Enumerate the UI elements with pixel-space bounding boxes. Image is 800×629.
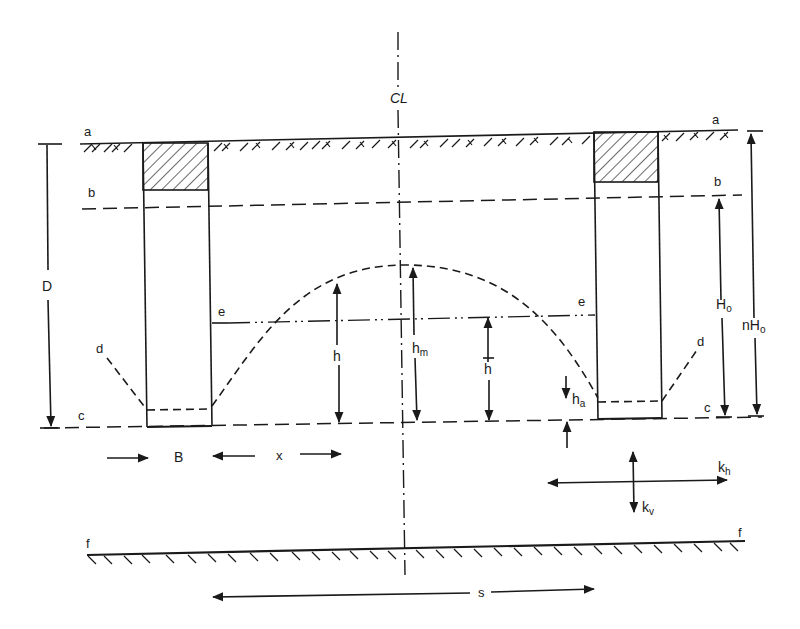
dimension-x: x	[276, 448, 341, 463]
level-b-left-label: b	[88, 185, 95, 200]
level-e-right-label: e	[578, 294, 585, 309]
dimension-ha: ha	[566, 376, 586, 448]
h-label: h	[333, 348, 341, 364]
level-b-right-label: b	[714, 174, 721, 189]
kv-label: kv	[642, 499, 654, 517]
dimension-D: D	[38, 144, 62, 428]
level-a-right-label: a	[712, 112, 720, 127]
right-trench	[594, 132, 697, 419]
permeability-arrows: kh kv	[548, 452, 731, 517]
centerline: CL	[390, 32, 408, 575]
level-d-left-label: d	[96, 341, 103, 356]
drainage-diagram: CL a a b b c c d d e e f f	[0, 0, 800, 629]
s-label: s	[478, 585, 485, 600]
level-e-left-label: e	[218, 304, 225, 319]
kh-label: kh	[718, 459, 731, 477]
level-b-line	[82, 195, 742, 209]
left-trench	[107, 143, 212, 427]
nH0-label: nHo	[742, 317, 766, 335]
level-f-left-label: f	[86, 536, 90, 551]
water-table-curve	[212, 265, 598, 406]
hbar-label: h	[484, 361, 492, 377]
level-c-left-label: c	[78, 408, 85, 423]
level-d-right-label: d	[697, 334, 704, 349]
drawdown-d-right	[662, 350, 697, 401]
level-f-right-label: f	[738, 525, 742, 540]
level-a-left-label: a	[84, 124, 92, 139]
D-label: D	[42, 278, 52, 294]
centerline-label: CL	[390, 90, 408, 106]
dimension-hm: hm	[412, 268, 428, 420]
dimension-H0: Ho	[716, 199, 732, 417]
hm-label: hm	[412, 340, 428, 358]
ha-label: ha	[572, 391, 586, 409]
dimension-B: B	[107, 449, 255, 465]
drawdown-d-left	[107, 358, 147, 410]
B-label: B	[174, 449, 183, 465]
dimension-s: s	[213, 585, 594, 600]
dimension-h: h	[333, 284, 341, 422]
level-c-right-label: c	[704, 400, 711, 415]
dimension-nH0: nHo	[742, 131, 766, 416]
impermeable-layer	[87, 541, 745, 564]
H0-label: Ho	[716, 296, 732, 314]
x-label: x	[276, 448, 283, 463]
dimension-hbar: h	[483, 318, 494, 420]
